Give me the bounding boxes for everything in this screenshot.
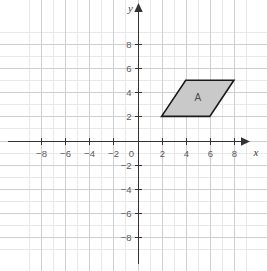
y-tick-label: 2 xyxy=(126,111,131,122)
x-tick-label: 2 xyxy=(160,148,165,159)
coordinate-plane-figure: −8−6−4−22468 −8−6−4−22468 0 xy A xyxy=(0,0,267,271)
y-tick-label: 6 xyxy=(126,63,131,74)
x-tick-label: −4 xyxy=(84,148,95,159)
x-tick-label: −8 xyxy=(36,148,47,159)
x-tick-label: 8 xyxy=(232,148,237,159)
coordinate-plane-svg: −8−6−4−22468 −8−6−4−22468 0 xy A xyxy=(0,0,267,271)
y-tick-label: −2 xyxy=(121,160,132,171)
y-tick-label: −4 xyxy=(121,184,132,195)
origin-label: 0 xyxy=(129,148,134,159)
y-tick-label: −8 xyxy=(121,232,132,243)
x-axis-label: x xyxy=(253,146,259,158)
origin-zero-label: 0 xyxy=(129,148,134,159)
x-tick-label: −2 xyxy=(108,148,119,159)
shape-labels: A xyxy=(194,92,201,103)
shape-label-a: A xyxy=(194,92,201,103)
y-axis-label: y xyxy=(127,2,133,14)
x-tick-label: 4 xyxy=(184,148,189,159)
y-tick-label: 8 xyxy=(126,39,131,50)
x-tick-label: −6 xyxy=(60,148,71,159)
y-tick-label: 4 xyxy=(126,87,131,98)
plot-background xyxy=(0,0,267,271)
x-tick-label: 6 xyxy=(208,148,213,159)
y-tick-label: −6 xyxy=(121,208,132,219)
